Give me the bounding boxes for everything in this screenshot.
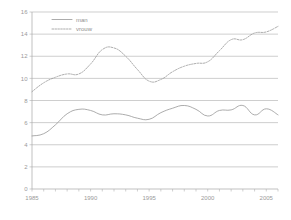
legend-label-vrouw: vrouw xyxy=(76,26,93,32)
legend-label-man: man xyxy=(76,17,88,23)
x-tick-label: 2005 xyxy=(260,195,274,201)
chart-container: 0246810121416 19851990199520002005 man v… xyxy=(0,0,291,220)
x-tick-label: 2000 xyxy=(201,195,215,201)
x-tick-label: 1990 xyxy=(84,195,98,201)
x-tick-label: 1995 xyxy=(142,195,156,201)
y-tick-label: 16 xyxy=(21,9,28,15)
x-tick-label: 1985 xyxy=(25,195,39,201)
y-tick-label: 10 xyxy=(21,76,28,82)
y-tick-label: 14 xyxy=(21,31,28,37)
chart-background xyxy=(0,0,291,220)
y-tick-label: 12 xyxy=(21,53,28,59)
line-chart: 0246810121416 19851990199520002005 man v… xyxy=(0,0,291,220)
